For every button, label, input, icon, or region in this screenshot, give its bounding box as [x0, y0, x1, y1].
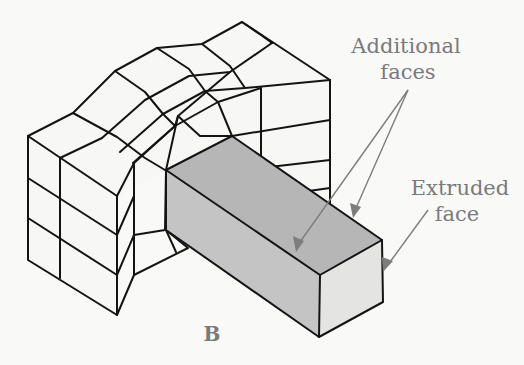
- leader-extruded-face: [390, 210, 428, 262]
- label-extruded-line2: face: [435, 202, 479, 226]
- panel-label: B: [204, 322, 221, 346]
- label-additional-line2: faces: [380, 60, 435, 84]
- mesh-diagram: Additional faces Extruded face B: [0, 0, 524, 365]
- extruded-block: [166, 136, 383, 337]
- leader-additional-faces-2: [356, 90, 408, 208]
- label-additional-line1: Additional: [350, 34, 461, 58]
- arrow-head-icon: [350, 203, 361, 218]
- label-extruded-line1: Extruded: [411, 176, 510, 200]
